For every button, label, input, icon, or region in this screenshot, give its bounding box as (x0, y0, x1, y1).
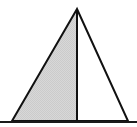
triangle-diagram (0, 0, 137, 127)
figure-canvas (0, 0, 137, 127)
